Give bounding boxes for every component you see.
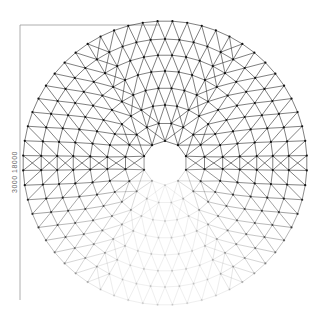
dome-struts — [23, 21, 307, 305]
dome-plan-drawing — [0, 0, 326, 330]
dimension-label: 3000 18000 — [11, 151, 18, 193]
